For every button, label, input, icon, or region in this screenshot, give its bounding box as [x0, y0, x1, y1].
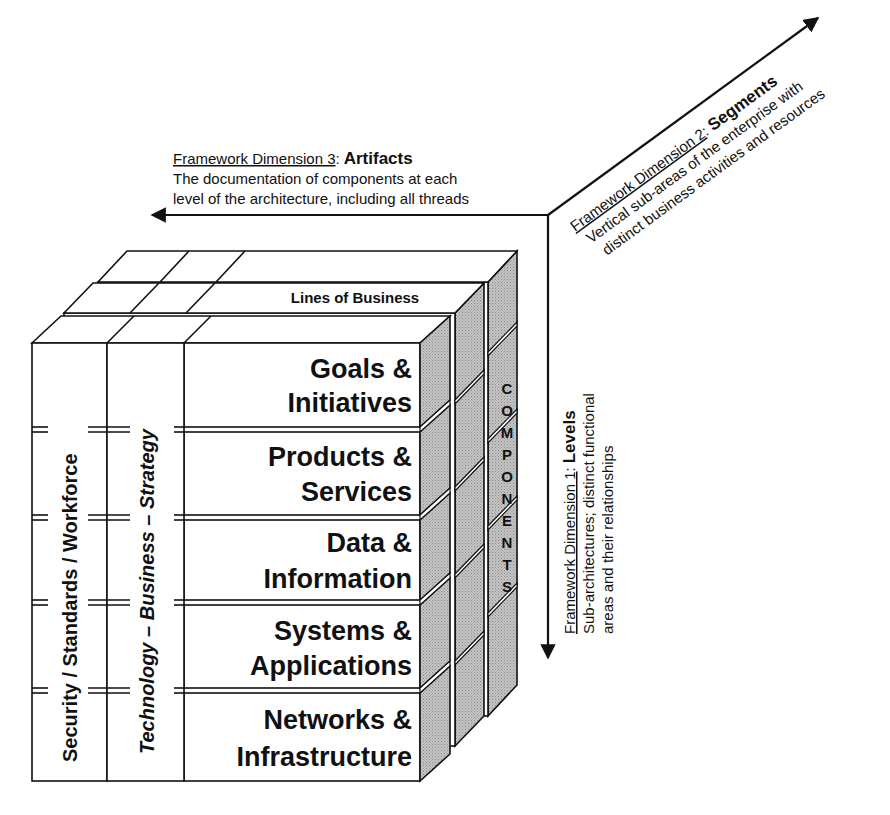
- level-products-line2: Services: [301, 477, 412, 507]
- svg-text:C: C: [502, 380, 513, 397]
- dimension1-annotation: Framework Dimension 1:Levels Sub-archite…: [560, 393, 616, 634]
- level-networks-line1: Networks &: [263, 705, 412, 735]
- dimension2-desc-line1: Vertical sub-areas of the enterprise wit…: [583, 77, 806, 246]
- front-slab: Security / Standards / Workforce Technol…: [32, 316, 450, 781]
- level-products-line1: Products &: [268, 442, 412, 472]
- svg-text:N: N: [502, 490, 513, 507]
- svg-text:O: O: [501, 402, 513, 419]
- dimension2-annotation: Framework Dimension 2:Segments Vertical …: [566, 53, 828, 265]
- level-systems-line1: Systems &: [274, 616, 412, 646]
- level-data-line1: Data &: [326, 528, 412, 558]
- level-data-line2: Information: [264, 564, 413, 594]
- level-systems-line2: Applications: [250, 651, 412, 681]
- svg-text:O: O: [501, 468, 513, 485]
- svg-text:N: N: [502, 534, 513, 551]
- dimension1-desc-line2: areas and their relationships: [599, 446, 616, 634]
- dimension3-desc-line2: level of the architecture, including all…: [173, 190, 469, 207]
- ea-framework-diagram: Framework Dimension 3:Artifacts The docu…: [0, 0, 890, 815]
- dimension3-annotation: Framework Dimension 3:Artifacts The docu…: [173, 149, 469, 207]
- dimension3-desc-line1: The documentation of components at each: [173, 170, 457, 187]
- thread-label-security: Security / Standards / Workforce: [59, 453, 81, 762]
- level-goals-line2: Initiatives: [287, 388, 412, 418]
- lines-of-business-label: Lines of Business: [291, 289, 419, 306]
- svg-text:T: T: [502, 556, 511, 573]
- svg-text:P: P: [502, 446, 512, 463]
- dimension3-heading: Framework Dimension 3:Artifacts: [173, 149, 413, 168]
- thread-label-technology: Technology – Business – Strategy: [136, 428, 158, 754]
- svg-text:E: E: [502, 512, 512, 529]
- level-networks-line2: Infrastructure: [236, 742, 412, 772]
- svg-text:S: S: [502, 578, 512, 595]
- dimension1-heading: Framework Dimension 1:Levels: [560, 410, 579, 634]
- dimension1-desc-line1: Sub-architectures; distinct functional: [580, 393, 597, 634]
- svg-text:M: M: [501, 424, 514, 441]
- level-goals-line1: Goals &: [310, 354, 412, 384]
